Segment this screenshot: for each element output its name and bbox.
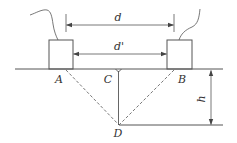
label-b: B bbox=[177, 73, 186, 86]
label-c: C bbox=[104, 73, 113, 86]
label-h: h bbox=[195, 95, 208, 102]
label-d-prime: d' bbox=[114, 40, 124, 53]
label-d: d bbox=[114, 11, 121, 24]
sensor-box-a bbox=[49, 40, 73, 69]
sensor-box-b bbox=[167, 40, 192, 69]
label-a: A bbox=[54, 73, 63, 86]
label-d-point: D bbox=[113, 127, 123, 140]
dashed-line-b-d bbox=[119, 70, 174, 125]
cable-a-icon bbox=[30, 10, 58, 40]
cable-b-icon bbox=[179, 9, 200, 40]
measurement-diagram: d d' h A B C D bbox=[0, 0, 237, 143]
